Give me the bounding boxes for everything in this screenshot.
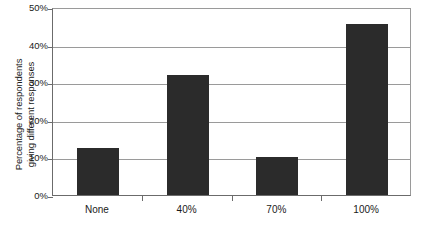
- bar: [77, 148, 119, 195]
- bar-slot: [233, 9, 323, 195]
- bar-slot: [53, 9, 143, 195]
- plot-area: [52, 8, 411, 196]
- bar: [256, 157, 298, 195]
- bar-slot: [143, 9, 233, 195]
- y-axis-tick-label: 50%: [14, 3, 48, 13]
- bar-chart-figure: Percentage of respondents giving differe…: [0, 0, 423, 242]
- x-axis-tick-label: 100%: [321, 203, 411, 216]
- bar: [346, 24, 388, 195]
- x-axis-tick-mark: [321, 196, 322, 201]
- y-axis-tick-label: 20%: [14, 116, 48, 126]
- x-axis-tick-label: None: [52, 203, 142, 216]
- bar: [167, 75, 209, 195]
- y-axis-tick-label: 30%: [14, 78, 48, 88]
- x-axis-tick-marks: [52, 196, 411, 202]
- bars-layer: [53, 9, 410, 195]
- x-axis-tick-mark: [232, 196, 233, 201]
- y-axis-tick-label: 40%: [14, 41, 48, 51]
- x-axis-tick-label: 70%: [232, 203, 322, 216]
- y-axis-tick-labels: 0%10%20%30%40%50%: [14, 8, 48, 196]
- x-axis-tick-mark: [142, 196, 143, 201]
- bar-slot: [322, 9, 412, 195]
- y-axis-tick-label: 10%: [14, 153, 48, 163]
- x-axis-tick-labels: None40%70%100%: [52, 203, 411, 221]
- x-axis-tick-label: 40%: [142, 203, 232, 216]
- y-axis-tick-label: 0%: [14, 191, 48, 201]
